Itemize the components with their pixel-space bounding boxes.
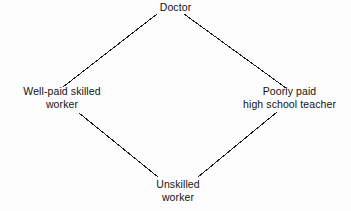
node-doctor-line-1: Doctor bbox=[0, 1, 351, 14]
node-poorly-paid-high-school-teacher-line-1: Poorly paid bbox=[228, 85, 351, 98]
node-unskilled-worker: Unskilled worker bbox=[128, 178, 228, 204]
node-unskilled-worker-line-2: worker bbox=[128, 191, 228, 204]
node-well-paid-skilled-worker-line-1: Well-paid skilled bbox=[0, 85, 124, 98]
node-unskilled-worker-line-1: Unskilled bbox=[128, 178, 228, 191]
edge-doctor-to-skilled-worker bbox=[63, 14, 157, 87]
node-doctor: Doctor bbox=[0, 1, 351, 14]
node-poorly-paid-high-school-teacher: Poorly paid high school teacher bbox=[228, 85, 351, 111]
edge-skilled-worker-to-unskilled bbox=[79, 113, 158, 177]
node-well-paid-skilled-worker: Well-paid skilled worker bbox=[0, 85, 124, 111]
diagram-canvas: Doctor Well-paid skilled worker Poorly p… bbox=[0, 0, 351, 211]
edge-teacher-to-unskilled bbox=[198, 112, 277, 177]
node-poorly-paid-high-school-teacher-line-2: high school teacher bbox=[228, 98, 351, 111]
edge-doctor-to-teacher bbox=[184, 14, 286, 88]
node-well-paid-skilled-worker-line-2: worker bbox=[0, 98, 124, 111]
